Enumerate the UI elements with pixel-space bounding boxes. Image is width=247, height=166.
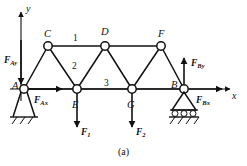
joint-label-G: G <box>127 100 135 111</box>
axis-y-label: y <box>26 4 30 14</box>
member-E-D <box>77 46 105 89</box>
rollers-B <box>172 111 196 117</box>
joint-label-C: C <box>44 29 51 40</box>
force-label-F1: F1 <box>81 128 91 138</box>
force-subscript: Bx <box>202 99 210 106</box>
hatching-B <box>170 117 199 124</box>
truss-figure: y x A C D F E G B 1 2 3 FAy FAx FBy FBx … <box>0 0 247 166</box>
joint-G <box>128 85 136 93</box>
force-subscript: By <box>197 62 204 69</box>
member-number-2: 2 <box>72 62 77 72</box>
joint-label-D: D <box>101 27 109 38</box>
joint-D <box>101 42 109 50</box>
hatching-A <box>12 117 33 124</box>
member-number-3: 3 <box>104 79 109 89</box>
member-A-C <box>24 46 48 89</box>
axis-x-label: x <box>232 91 236 101</box>
force-subscript: 1 <box>87 131 90 138</box>
member-G-F <box>132 46 161 89</box>
force-label-FAy: FAy <box>4 56 17 66</box>
force-subscript: Ax <box>40 99 48 106</box>
force-label-FBx: FBx <box>196 96 210 106</box>
joint-label-A: A <box>12 81 18 92</box>
joint-label-E: E <box>72 100 78 111</box>
force-label-FBy: FBy <box>191 59 205 69</box>
figure-caption: (a) <box>0 146 247 157</box>
force-subscript: 2 <box>142 131 145 138</box>
member-D-G <box>105 46 132 89</box>
force-subscript: Ay <box>10 59 17 66</box>
joint-E <box>73 85 81 93</box>
joint-label-B: B <box>171 80 177 91</box>
force-label-FAx: FAx <box>34 96 48 106</box>
truss-diagram <box>0 0 247 166</box>
joint-A <box>20 85 28 93</box>
joint-C <box>44 42 52 50</box>
force-label-F2: F2 <box>136 128 146 138</box>
roller-support-B <box>169 92 199 124</box>
joint-F <box>157 42 165 50</box>
member-number-1: 1 <box>73 34 78 44</box>
joint-label-F: F <box>158 29 164 40</box>
